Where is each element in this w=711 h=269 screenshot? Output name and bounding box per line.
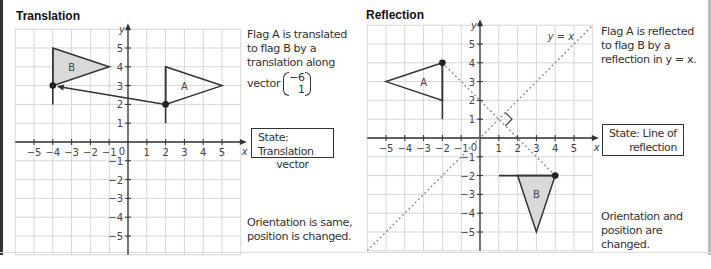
y-axis-label: y bbox=[470, 20, 478, 31]
state-line: vector bbox=[258, 158, 327, 172]
reflection-desc-line: reflection in y = x. bbox=[601, 53, 696, 67]
reflection-title: Reflection bbox=[366, 8, 424, 22]
y-axis-arrow-icon bbox=[477, 19, 483, 26]
x-tick-label: −3 bbox=[416, 143, 431, 154]
translation-desc-line: translation along bbox=[247, 56, 347, 70]
y-tick-label: 3 bbox=[469, 77, 475, 88]
state-line: reflection bbox=[609, 141, 677, 155]
conclusion-line: position are changed. bbox=[601, 224, 711, 252]
reflection-conclusion: Orientation and position are changed. bbox=[601, 210, 711, 252]
state-line: State: Line of bbox=[609, 127, 677, 141]
translation-state-box: State: Translation vector bbox=[251, 128, 334, 158]
y-tick-label: 2 bbox=[469, 95, 475, 106]
y-tick-label: −4 bbox=[460, 208, 475, 219]
y-tick-label: 1 bbox=[469, 114, 475, 125]
translation-conclusion: Orientation is same, position is changed… bbox=[247, 216, 352, 244]
vector-y: 1 bbox=[289, 84, 304, 96]
point-dot bbox=[439, 60, 446, 67]
x-tick-label: 1 bbox=[496, 143, 502, 154]
y-tick-label: 4 bbox=[469, 58, 475, 69]
translation-desc-line: Flag A is translated bbox=[247, 28, 347, 42]
translation-desc-line: to flag B by a bbox=[247, 42, 347, 56]
column-vector: −6 1 bbox=[283, 72, 310, 96]
flag-b-label: B bbox=[533, 189, 540, 200]
x-tick-label: 5 bbox=[571, 143, 577, 154]
mirror-line-label: y = x bbox=[547, 31, 575, 42]
flag-a-label: A bbox=[420, 77, 427, 88]
reflection-desc-line: to flag B by a bbox=[601, 39, 696, 53]
y-tick-label: −5 bbox=[460, 227, 475, 238]
state-line: State: Translation bbox=[258, 131, 327, 158]
vector-prefix: vector bbox=[247, 77, 280, 90]
x-tick-label: 2 bbox=[514, 143, 520, 154]
flag-b-triangle bbox=[518, 176, 556, 232]
x-tick-label: −2 bbox=[435, 143, 450, 154]
x-tick-label: −5 bbox=[379, 143, 394, 154]
translation-vector-line: vector −6 1 bbox=[247, 72, 347, 96]
translation-description: Flag A is translated to flag B by a tran… bbox=[247, 28, 347, 96]
x-tick-label: −4 bbox=[397, 143, 412, 154]
origin-label: 0 bbox=[471, 142, 477, 153]
x-axis-arrow-icon bbox=[592, 135, 599, 141]
point-dot bbox=[552, 172, 559, 179]
conclusion-line: Orientation is same, bbox=[247, 216, 352, 230]
reflection-state-box: State: Line of reflection bbox=[602, 124, 684, 156]
y-tick-label: −1 bbox=[460, 152, 475, 163]
y-tick-label: 5 bbox=[469, 39, 475, 50]
reflection-description: Flag A is reflected to flag B by a refle… bbox=[601, 25, 696, 67]
x-tick-label: 3 bbox=[533, 143, 539, 154]
conclusion-line: Orientation and bbox=[601, 210, 711, 224]
y-tick-label: −2 bbox=[460, 171, 475, 182]
reflection-desc-line: Flag A is reflected bbox=[601, 25, 696, 39]
x-tick-label: 4 bbox=[552, 143, 558, 154]
x-axis-label: x bbox=[593, 142, 600, 153]
y-tick-label: −3 bbox=[460, 189, 475, 200]
conclusion-line: position is changed. bbox=[247, 230, 352, 244]
